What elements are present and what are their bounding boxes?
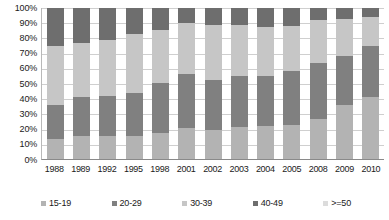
bar-segment[interactable] xyxy=(283,8,300,26)
bar-segment[interactable] xyxy=(126,136,143,159)
bar-segment[interactable] xyxy=(310,20,327,63)
bar-segment[interactable] xyxy=(257,126,274,159)
bar-segment[interactable] xyxy=(126,34,143,93)
bar-segment[interactable] xyxy=(99,40,116,97)
y-axis-tick-label: 40% xyxy=(0,95,37,104)
bar-segment[interactable] xyxy=(231,8,248,25)
bar-segment[interactable] xyxy=(152,8,169,30)
y-axis: 100%90%80%70%60%50%40%30%20%10%0% xyxy=(0,8,40,160)
y-axis-tick-label: 80% xyxy=(0,34,37,43)
bar-segment[interactable] xyxy=(310,119,327,159)
bar-column[interactable] xyxy=(95,8,121,159)
bar-segment[interactable] xyxy=(126,93,143,137)
y-axis-tick-label: 60% xyxy=(0,64,37,73)
bar-segment[interactable] xyxy=(152,133,169,159)
bar-segment[interactable] xyxy=(205,80,222,130)
bar-column[interactable] xyxy=(42,8,68,159)
bar-segment[interactable] xyxy=(336,56,353,104)
bar-segment[interactable] xyxy=(152,83,169,134)
x-axis-tick-label: 1988 xyxy=(41,163,67,177)
bar-stack xyxy=(126,8,143,159)
bar-stack xyxy=(152,8,169,159)
y-axis-tick-label: 90% xyxy=(0,19,37,28)
bar-segment[interactable] xyxy=(362,17,379,46)
bar-segment[interactable] xyxy=(231,25,248,76)
legend-item[interactable]: >=50 xyxy=(323,199,351,208)
bar-segment[interactable] xyxy=(99,136,116,159)
bar-segment[interactable] xyxy=(336,8,353,19)
bar-segment[interactable] xyxy=(126,8,143,34)
bar-segment[interactable] xyxy=(310,8,327,20)
bar-column[interactable] xyxy=(68,8,94,159)
bar-column[interactable] xyxy=(279,8,305,159)
bar-segment[interactable] xyxy=(178,23,195,74)
bar-segment[interactable] xyxy=(257,27,274,76)
legend-item[interactable]: 40-49 xyxy=(253,199,283,208)
bar-segment[interactable] xyxy=(231,76,248,127)
bar-segment[interactable] xyxy=(47,8,64,46)
bar-segment[interactable] xyxy=(178,128,195,159)
legend-item[interactable]: 30-39 xyxy=(182,199,212,208)
chart-legend: 15-1920-2930-3940-49>=50 xyxy=(41,196,351,210)
bar-segment[interactable] xyxy=(73,97,90,136)
bar-segment[interactable] xyxy=(257,76,274,126)
bar-column[interactable] xyxy=(121,8,147,159)
bar-segment[interactable] xyxy=(336,105,353,159)
bar-segment[interactable] xyxy=(47,105,64,139)
y-axis-tick-label: 70% xyxy=(0,49,37,58)
bar-column[interactable] xyxy=(305,8,331,159)
bar-segment[interactable] xyxy=(283,125,300,159)
bar-segment[interactable] xyxy=(283,71,300,125)
bar-stack xyxy=(283,8,300,159)
bar-segment[interactable] xyxy=(99,96,116,135)
legend-item[interactable]: 15-19 xyxy=(41,199,71,208)
bar-segment[interactable] xyxy=(99,8,116,40)
bar-segment[interactable] xyxy=(47,46,64,105)
bar-segment[interactable] xyxy=(47,139,64,159)
bar-segment[interactable] xyxy=(336,19,353,57)
bar-segment[interactable] xyxy=(73,43,90,97)
y-axis-tick-label: 100% xyxy=(0,4,37,13)
bar-segment[interactable] xyxy=(362,46,379,97)
plot-wrapper: 100%90%80%70%60%50%40%30%20%10%0% 198819… xyxy=(0,8,389,168)
bar-column[interactable] xyxy=(147,8,173,159)
bar-stack xyxy=(257,8,274,159)
y-axis-tick-label: 10% xyxy=(0,140,37,149)
x-axis-tick-label: 2005 xyxy=(279,163,305,177)
square-marker-icon xyxy=(323,201,328,206)
y-axis-tick-label: 0% xyxy=(0,156,37,165)
bar-stack xyxy=(231,8,248,159)
legend-item-label: 15-19 xyxy=(49,199,71,208)
y-axis-tick-label: 50% xyxy=(0,80,37,89)
bar-segment[interactable] xyxy=(205,25,222,79)
x-axis-tick-label: 2010 xyxy=(358,163,384,177)
bar-segment[interactable] xyxy=(205,8,222,25)
bar-series-group xyxy=(42,8,384,159)
bar-column[interactable] xyxy=(226,8,252,159)
bar-column[interactable] xyxy=(331,8,357,159)
legend-item[interactable]: 20-29 xyxy=(112,199,142,208)
bar-column[interactable] xyxy=(174,8,200,159)
x-axis-tick-label: 2008 xyxy=(305,163,331,177)
bar-segment[interactable] xyxy=(283,26,300,71)
x-axis-tick-label: 1992 xyxy=(94,163,120,177)
bar-segment[interactable] xyxy=(73,8,90,43)
bar-segment[interactable] xyxy=(178,74,195,128)
bar-column[interactable] xyxy=(253,8,279,159)
x-axis-tick-label: 2003 xyxy=(226,163,252,177)
x-axis-tick-label: 2002 xyxy=(199,163,225,177)
bar-segment[interactable] xyxy=(205,130,222,159)
bar-stack xyxy=(336,8,353,159)
bar-segment[interactable] xyxy=(362,8,379,17)
bar-segment[interactable] xyxy=(310,63,327,119)
bar-segment[interactable] xyxy=(362,97,379,159)
bar-stack xyxy=(47,8,64,159)
bar-segment[interactable] xyxy=(231,127,248,159)
bar-segment[interactable] xyxy=(257,8,274,27)
bar-column[interactable] xyxy=(200,8,226,159)
bar-segment[interactable] xyxy=(178,8,195,23)
bar-column[interactable] xyxy=(358,8,384,159)
x-axis-tick-label: 1998 xyxy=(147,163,173,177)
bar-segment[interactable] xyxy=(152,30,169,83)
bar-segment[interactable] xyxy=(73,136,90,159)
